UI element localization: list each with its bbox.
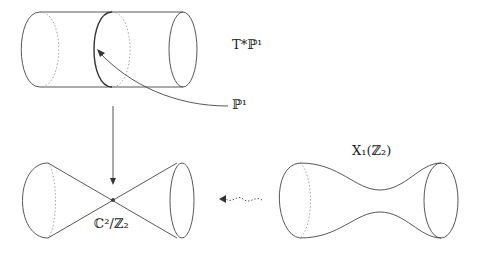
deformation-arrow xyxy=(226,198,262,201)
p1-label: ℙ¹ xyxy=(232,97,247,112)
p1-circle xyxy=(94,12,112,87)
cylinder-shape xyxy=(21,12,197,87)
x1-label: X₁(ℤ₂) xyxy=(352,143,391,158)
cotangent-label: T*ℙ¹ xyxy=(232,37,262,52)
diagram-canvas: T*ℙ¹ ℙ¹ ℂ²/ℤ₂ X₁(ℤ₂) xyxy=(0,0,481,253)
hourglass-shape xyxy=(279,163,458,238)
pointer-arrow xyxy=(99,52,228,106)
orbifold-label: ℂ²/ℤ₂ xyxy=(94,216,129,231)
